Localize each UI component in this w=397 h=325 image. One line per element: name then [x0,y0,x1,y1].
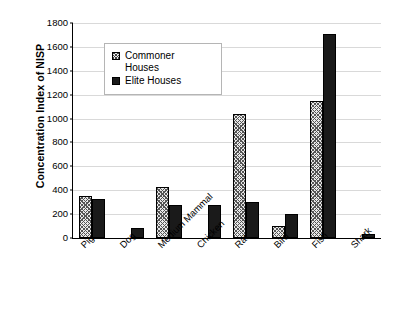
y-tick-label: 600 [52,162,68,172]
y-tick-label: 200 [52,209,68,219]
chart-legend: Commoner Houses Elite Houses [104,43,222,95]
y-tick-label: 800 [52,138,68,148]
y-tick-label: 1600 [47,42,68,52]
y-axis-title: Concentration Index of NISP [34,6,46,226]
y-tick-mark [70,70,73,71]
y-tick-mark [70,142,73,143]
elite-swatch-icon [112,77,120,85]
y-tick-label: 1400 [47,66,68,76]
y-tick-mark [70,23,73,24]
bar-group [272,23,298,238]
bar-group [310,23,336,238]
y-tick-label: 0 [63,233,68,243]
y-tick-label: 1200 [47,90,68,100]
bar-chart-figure: Concentration Index of NISP 020040060080… [0,0,397,325]
legend-item-commoner: Commoner Houses [112,50,214,73]
bar-group [79,23,105,238]
y-tick-mark [70,238,73,239]
bar [310,101,323,238]
bar [233,114,246,238]
commoner-swatch-icon [112,52,120,60]
bar [92,199,105,238]
legend-label-elite: Elite Houses [125,75,181,87]
y-tick-label: 1000 [47,114,68,124]
bar [79,196,92,238]
bar [246,202,259,238]
y-tick-mark [70,166,73,167]
y-tick-label: 400 [52,185,68,195]
y-tick-mark [70,46,73,47]
bar-group [233,23,259,238]
legend-item-elite: Elite Houses [112,75,214,87]
y-tick-mark [70,94,73,95]
legend-label-commoner: Commoner Houses [125,50,174,73]
y-tick-mark [70,118,73,119]
y-tick-mark [70,214,73,215]
y-tick-mark [70,190,73,191]
bar [323,34,336,238]
y-tick-label: 1800 [47,18,68,28]
bar-group [349,23,375,238]
